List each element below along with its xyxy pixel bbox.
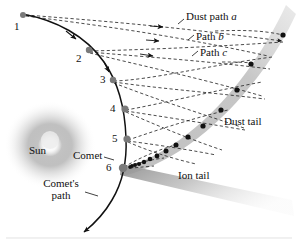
dust-path-a-label: Dust path a bbox=[186, 11, 237, 23]
comets-path-label: Comet's path bbox=[33, 178, 89, 201]
leader-path-c bbox=[192, 51, 198, 56]
position-dot-3 bbox=[110, 77, 116, 83]
sun-glow bbox=[4, 101, 96, 189]
leader-path-b bbox=[188, 35, 194, 40]
dust-tail-label: Dust tail bbox=[224, 116, 262, 128]
sun-label: Sun bbox=[29, 145, 46, 157]
position-dot-5 bbox=[123, 135, 130, 142]
position-dot-2 bbox=[86, 47, 92, 53]
ion-tail-label: Ion tail bbox=[178, 170, 209, 182]
position-label-3: 3 bbox=[100, 73, 106, 85]
path-b-label: Path b bbox=[196, 31, 224, 43]
position-dot-6 bbox=[119, 164, 127, 172]
position-label-2: 2 bbox=[76, 52, 82, 64]
position-label-1: 1 bbox=[14, 20, 20, 32]
path-c-label: Path c bbox=[200, 47, 227, 59]
position-dot-4 bbox=[121, 105, 128, 112]
position-label-5: 5 bbox=[112, 132, 118, 144]
leader-dust-path-a bbox=[178, 19, 184, 24]
position-dot-1 bbox=[20, 12, 26, 18]
leader-comet bbox=[104, 157, 114, 160]
position-label-4: 4 bbox=[110, 102, 116, 114]
comet-label: Comet bbox=[73, 150, 102, 162]
position-label-6: 6 bbox=[106, 161, 112, 173]
dust-path-arrowheads bbox=[140, 26, 163, 56]
comet-tail-diagram: Dust path a Path b Path c Dust tail Ion … bbox=[0, 0, 298, 241]
